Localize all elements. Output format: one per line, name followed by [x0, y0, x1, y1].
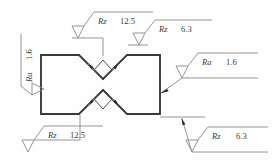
annotation-top-right-tick: [145, 20, 155, 33]
annotation-bottom-left-tick: [34, 126, 44, 140]
annotation-top-right-triangle-icon: [133, 33, 145, 45]
annotation-top-left-triangle-icon: [72, 26, 84, 38]
annotation-top-left-value: 12.5: [120, 16, 135, 26]
technical-drawing: Rz 12.5 Rz 6.3 Ra 1.6: [0, 0, 275, 163]
annotation-right-triangle-icon: [176, 66, 188, 78]
annotation-bottom-right-arrow-icon: [181, 118, 185, 126]
annotation-top-right[interactable]: Rz 6.3: [128, 20, 212, 45]
annotation-top-right-value: 6.3: [181, 24, 192, 34]
annotation-bottom-left-value: 12.5: [70, 130, 85, 140]
annotation-right-arrow-icon: [160, 89, 169, 94]
annotation-top-left-tick: [84, 12, 94, 26]
annotation-top-left[interactable]: Rz 12.5: [72, 12, 153, 56]
bottom-notch-finish-symbol: [88, 89, 119, 109]
top-notch-finish-symbol: [88, 60, 119, 80]
part-outline: [41, 55, 160, 114]
annotation-bottom-right-tick: [198, 127, 208, 140]
top-notch-triangle-icon: [94, 60, 112, 80]
annotation-bottom-right-value: 6.3: [236, 131, 247, 141]
annotation-right-tick: [188, 53, 198, 66]
annotation-top-left-parameter: Rz: [97, 16, 107, 26]
annotation-top-right-parameter: Rz: [158, 24, 168, 34]
annotation-left-parameter: Ra: [24, 72, 34, 83]
annotation-left-tick: [21, 86, 32, 95]
part-body-path: [41, 55, 160, 114]
annotation-bottom-left-triangle-icon: [22, 140, 34, 152]
annotation-right-value: 1.6: [226, 57, 237, 67]
annotation-bottom-left-parameter: Rz: [47, 130, 57, 140]
bottom-notch-triangle-icon: [94, 89, 112, 109]
annotation-left-triangle-icon: [32, 83, 44, 95]
annotation-bottom-right[interactable]: Rz 6.3: [160, 117, 268, 152]
annotation-bottom-right-parameter: Rz: [211, 131, 221, 141]
drawing-canvas: Rz 12.5 Rz 6.3 Ra 1.6: [0, 0, 275, 163]
annotation-top-left-leader: [72, 38, 103, 56]
annotation-left-value: 1.6: [24, 49, 34, 60]
annotation-bottom-left[interactable]: Rz 12.5: [22, 115, 103, 152]
annotation-right-parameter: Ra: [201, 57, 212, 67]
annotation-bottom-right-triangle-icon: [186, 140, 198, 152]
annotation-right[interactable]: Ra 1.6: [160, 53, 258, 94]
